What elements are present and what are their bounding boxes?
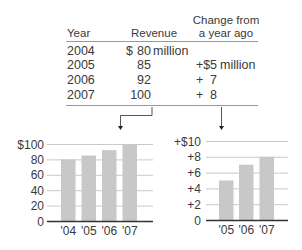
y-tick-label: +4 [187,182,201,196]
revenue-chart: 020406080$100'04'05'06'07 [17,138,153,239]
y-tick-label: 40 [31,184,45,198]
bar [239,165,254,220]
y-tick-label: 60 [31,168,45,182]
bar [219,181,234,221]
y-tick-label: +6 [187,166,201,180]
revenue-connector-arrow [118,126,123,130]
x-tick-label: '06 [101,224,117,238]
change-chart: 0+2+4+6+8+$10'05'06'07 [174,135,288,238]
y-tick-label: +2 [187,198,201,212]
revenue-connector-line [121,107,153,127]
bar [61,159,76,221]
bar [82,156,97,221]
y-tick-label: 0 [37,215,44,229]
bar [123,144,138,221]
bar [102,150,117,221]
x-tick-label: '07 [259,223,275,237]
x-tick-label: '06 [238,223,254,237]
charts-svg: 020406080$100'04'05'06'07 0+2+4+6+8+$10'… [0,0,302,250]
x-tick-label: '05 [218,223,234,237]
x-tick-label: '05 [81,224,97,238]
y-tick-label: 20 [31,199,45,213]
x-tick-label: '07 [122,224,138,238]
y-tick-label: +$10 [174,135,201,149]
x-tick-label: '04 [60,224,76,238]
y-tick-label: +8 [187,150,201,164]
y-tick-label: $100 [17,138,44,152]
y-tick-label: 0 [194,214,201,228]
bar [260,157,275,220]
y-tick-label: 80 [31,153,45,167]
change-connector-arrow [219,126,224,130]
